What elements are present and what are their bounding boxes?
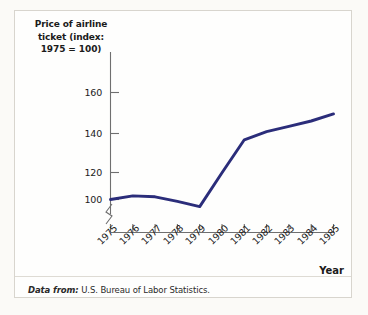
data-series-line [111,114,334,207]
y-tick-label-160: 160 [68,87,102,98]
y-tick-label-140: 140 [68,128,102,139]
y-tick-label-120: 120 [68,167,102,178]
y-tick-marks [110,93,119,200]
y-tick-label-100: 100 [68,194,102,205]
footnote-label: Data from: [28,285,79,295]
footnote-divider [15,276,351,277]
chart-figure: Price of airline ticket (index: 1975 = 1… [0,0,368,315]
footnote-text: U.S. Bureau of Labor Statistics. [81,285,210,295]
y-axis-break-mark [106,204,112,224]
plot-area [0,0,368,315]
footnote: Data from: U.S. Bureau of Labor Statisti… [28,285,210,295]
x-axis-title: Year [319,265,344,276]
